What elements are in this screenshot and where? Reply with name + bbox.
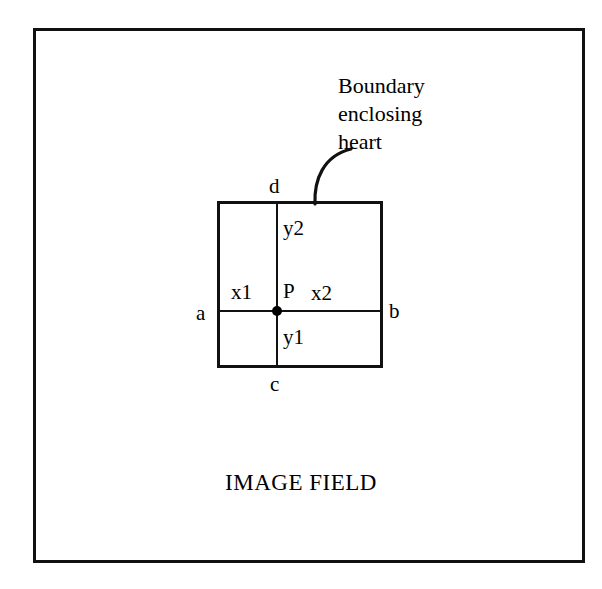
label-segment-y2: y2	[283, 218, 304, 239]
label-point-p: P	[283, 281, 295, 302]
boundary-annotation: Boundary enclosing heart	[338, 72, 425, 156]
diagram-canvas: d c a b y2 y1 x1 P x2 Boundary enclosing…	[0, 0, 602, 589]
image-field-caption: IMAGE FIELD	[0, 470, 602, 496]
label-segment-x1: x1	[231, 282, 252, 303]
label-edge-top: d	[269, 176, 280, 197]
horizontal-axis-line	[217, 310, 383, 312]
label-segment-x2: x2	[311, 283, 332, 304]
label-segment-y1: y1	[283, 327, 304, 348]
label-edge-left: a	[196, 303, 205, 324]
label-edge-right: b	[389, 301, 400, 322]
label-edge-bottom: c	[270, 374, 279, 395]
vertical-axis-line	[276, 201, 278, 368]
point-p-marker	[272, 306, 282, 316]
